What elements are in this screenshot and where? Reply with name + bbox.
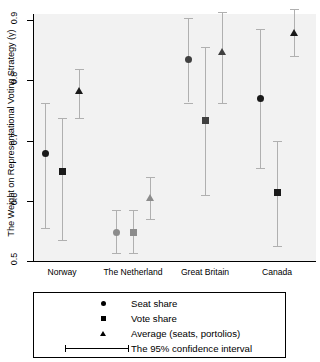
triangle-marker-icon xyxy=(94,331,112,336)
plot-panel xyxy=(33,14,316,262)
data-point-triangle xyxy=(218,48,226,55)
data-point-square xyxy=(274,189,281,196)
error-bar-cap xyxy=(41,103,50,104)
data-point-circle xyxy=(257,95,264,102)
x-axis-line xyxy=(33,261,316,262)
error-bar-cap xyxy=(41,228,50,229)
y-axis-tick xyxy=(27,201,33,202)
error-bar-cap xyxy=(129,210,138,211)
data-point-circle xyxy=(113,229,120,236)
chart-figure: The Weight on Representational Voting St… xyxy=(0,0,320,362)
error-bar-cap xyxy=(129,253,138,254)
data-point-square xyxy=(130,229,137,236)
data-point-triangle xyxy=(146,194,154,201)
chart-legend: Seat share Vote share Average (seats, po… xyxy=(33,292,286,358)
error-bar-cap xyxy=(256,29,265,30)
error-bar-cap xyxy=(273,246,282,247)
legend-label-average: Average (seats, portolios) xyxy=(131,328,240,339)
y-axis-tick xyxy=(27,141,33,142)
errorbar-marker-icon xyxy=(65,345,129,352)
error-bar-cap xyxy=(75,118,84,119)
error-bar-cap xyxy=(58,118,67,119)
legend-entry-average: Average (seats, portolios) xyxy=(34,326,285,341)
error-bar xyxy=(222,12,223,102)
y-axis-tick-label: 0.6 xyxy=(9,188,19,210)
error-bar-cap xyxy=(273,141,282,142)
error-bar-cap xyxy=(201,195,210,196)
error-bar-cap xyxy=(58,240,67,241)
data-point-square xyxy=(202,117,209,124)
legend-label-vote-share: Vote share xyxy=(131,313,177,324)
x-axis-category-label: Canada xyxy=(232,267,320,277)
legend-entry-confidence-interval: The 95% confidence interval xyxy=(34,341,285,356)
error-bar-cap xyxy=(218,12,227,13)
error-bar-cap xyxy=(218,103,227,104)
error-bar-cap xyxy=(184,103,193,104)
error-bar-cap xyxy=(75,69,84,70)
data-point-square xyxy=(59,168,66,175)
legend-entry-seat-share: Seat share xyxy=(34,296,285,311)
error-bar-cap xyxy=(112,210,121,211)
error-bar-cap xyxy=(201,47,210,48)
error-bar-cap xyxy=(112,253,121,254)
legend-entry-vote-share: Vote share xyxy=(34,311,285,326)
y-axis-tick xyxy=(27,20,33,21)
y-axis-tick-label: 0.7 xyxy=(9,128,19,150)
error-bar xyxy=(45,103,46,228)
y-axis-tick xyxy=(27,80,33,81)
y-axis-tick xyxy=(27,261,33,262)
error-bar-cap xyxy=(290,9,299,10)
square-marker-icon xyxy=(94,316,112,321)
y-axis-line xyxy=(33,14,34,262)
data-point-triangle xyxy=(75,87,83,94)
y-axis-tick-label: 0.8 xyxy=(9,67,19,89)
legend-label-seat-share: Seat share xyxy=(131,298,177,309)
legend-label-confidence-interval: The 95% confidence interval xyxy=(131,343,252,354)
error-bar-cap xyxy=(146,177,155,178)
error-bar xyxy=(62,118,63,240)
circle-marker-icon xyxy=(94,301,112,306)
error-bar-cap xyxy=(184,18,193,19)
data-point-triangle xyxy=(290,29,298,36)
error-bar-cap xyxy=(290,56,299,57)
y-axis-tick-label: 0.9 xyxy=(9,7,19,29)
error-bar-cap xyxy=(146,219,155,220)
error-bar-cap xyxy=(256,168,265,169)
